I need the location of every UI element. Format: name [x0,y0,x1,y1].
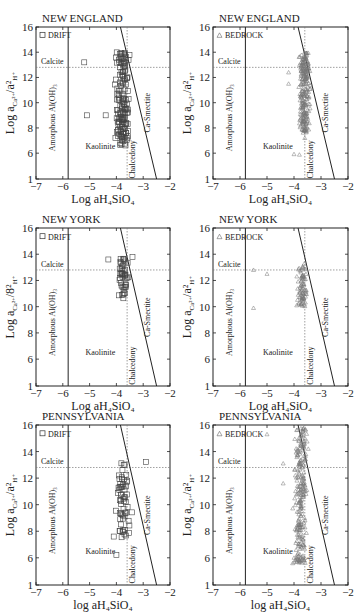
chart-panel-2: −7−6−5−4−3−216810121416NEW ENGLANDLog aH… [180,12,354,206]
y-tick-label: 16 [22,222,34,234]
y-tick-label: 12 [22,472,33,484]
x-tick-label: −6 [234,180,246,192]
y-tick-label: 1 [28,579,34,591]
amorphous-label: Amorphous Al(OH)₃ [225,289,234,356]
x-tick-label: −6 [57,586,69,598]
smectite-label: Ca-Smectite [143,495,152,535]
x-tick-label: −4 [288,387,300,399]
x-axis-label: log aH₄SiO₄ [73,598,132,612]
x-tick-label: −3 [137,586,149,598]
y-axis-label: Log aCa²⁺/a²H⁺ [180,474,196,537]
y-axis-label: Log aCa²⁺/a²H⁺ [180,276,196,339]
y-axis-label: Log aCa²⁺/a²H⁺ [3,72,19,135]
y-tick-label: 8 [205,327,211,339]
data-points [252,262,309,310]
x-tick-label: −3 [315,387,327,399]
data-points [82,50,132,148]
calcite-label: Calcite [218,57,241,66]
x-tick-label: −2 [342,387,354,399]
x-axis-label: Log aH₄SiO₄ [249,192,312,206]
square-marker-icon [40,32,45,37]
triangle-marker-icon [217,234,222,239]
chart-panel-3: −7−6−5−4−3−216810121416NEW YORKLog aH₄Si… [3,213,176,413]
x-tick-label: −4 [111,387,123,399]
x-tick-label: −5 [84,180,96,192]
panel-title: NEW YORK [219,213,277,225]
legend-label: DRIFT [48,233,71,242]
y-tick-label: 16 [22,21,34,33]
y-tick-label: 1 [205,173,211,185]
smectite-label: Ca-Smectite [321,297,330,337]
amorphous-label: Amorphous Al(OH)₃ [48,84,57,151]
y-tick-label: 8 [205,122,211,134]
y-tick-label: 14 [199,446,211,458]
chalcedony-label: Chalcedony [306,140,315,178]
y-tick-label: 6 [205,353,211,365]
y-tick-label: 16 [199,419,211,431]
legend-label: DRIFT [48,430,71,439]
calcite-label: Calcite [41,457,64,466]
x-tick-label: −6 [57,180,69,192]
figure-canvas: −7−6−5−4−3−216810121416NEW ENGLANDLog aH… [0,0,358,612]
x-tick-label: −4 [111,180,123,192]
data-points [106,254,135,300]
triangle-marker-icon [217,431,222,436]
y-axis-label: Log aCa²⁺/a²H⁺ [180,72,196,135]
kaolinite-label: Kaolinite [263,348,293,357]
y-tick-label: 16 [22,419,34,431]
y-tick-label: 8 [28,122,34,134]
kaolinite-label: Kaolinite [263,547,293,556]
x-axis-label: Log aH₄SiO₄ [71,192,134,206]
x-tick-label: −5 [261,387,273,399]
panel-title: NEW ENGLAND [42,12,123,24]
kaolinite-label: Kaolinite [85,547,115,556]
x-tick-label: −2 [342,180,354,192]
y-tick-label: 10 [22,499,34,511]
panel-title: NEW ENGLAND [219,12,300,24]
y-tick-label: 12 [199,472,210,484]
chalcedony-label: Chalcedony [128,140,137,178]
x-tick-label: −6 [234,387,246,399]
x-tick-label: −4 [111,586,123,598]
smectite-label: Ca-Smectite [321,495,330,535]
chalcedony-label: Chalcedony [128,346,137,384]
y-tick-label: 1 [205,579,211,591]
y-tick-label: 14 [22,248,34,260]
x-axis-label: log aH₄SiO₄ [251,598,310,612]
chart-panel-1: −7−6−5−4−3−216810121416NEW ENGLANDLog aH… [3,12,176,206]
legend-label: DRIFT [48,31,71,40]
panel-title: NEW YORK [42,213,100,225]
calcite-label: Calcite [218,457,241,466]
calcite-label: Calcite [41,260,64,269]
square-marker-icon [40,234,45,239]
panel-title: PENNSYLVANIA [219,410,302,422]
chart-panel-6: −7−6−5−4−3−216810121416PENNSYLVANIAlog a… [180,410,354,612]
amorphous-label: Amorphous Al(OH)₃ [48,289,57,356]
legend-label: BEDROCK [225,233,263,242]
calcite-label: Calcite [41,57,64,66]
x-tick-label: −5 [84,586,96,598]
smectite-label: Ca-Smectite [321,93,330,133]
x-tick-label: −5 [261,586,273,598]
chalcedony-label: Chalcedony [128,545,137,583]
y-tick-label: 14 [22,46,34,58]
amorphous-label: Amorphous Al(OH)₃ [48,487,57,554]
y-tick-label: 14 [199,248,211,260]
y-tick-label: 1 [28,380,34,392]
chart-panel-5: −7−6−5−4−3−216810121416PENNSYLVANIAlog a… [3,410,176,612]
y-tick-label: 6 [28,353,34,365]
x-tick-label: −5 [261,180,273,192]
y-tick-label: 1 [28,173,34,185]
y-tick-label: 6 [28,147,34,159]
triangle-marker-icon [217,33,222,38]
amorphous-label: Amorphous Al(OH)₃ [225,84,234,151]
legend-label: BEDROCK [225,430,263,439]
y-tick-label: 14 [22,446,34,458]
y-tick-label: 8 [28,525,34,537]
y-tick-label: 1 [205,380,211,392]
y-tick-label: 10 [22,301,34,313]
smectite-label: Ca-Smectite [143,93,152,133]
x-tick-label: −3 [315,180,327,192]
y-tick-label: 10 [199,97,211,109]
kaolinite-label: Kaolinite [263,142,293,151]
